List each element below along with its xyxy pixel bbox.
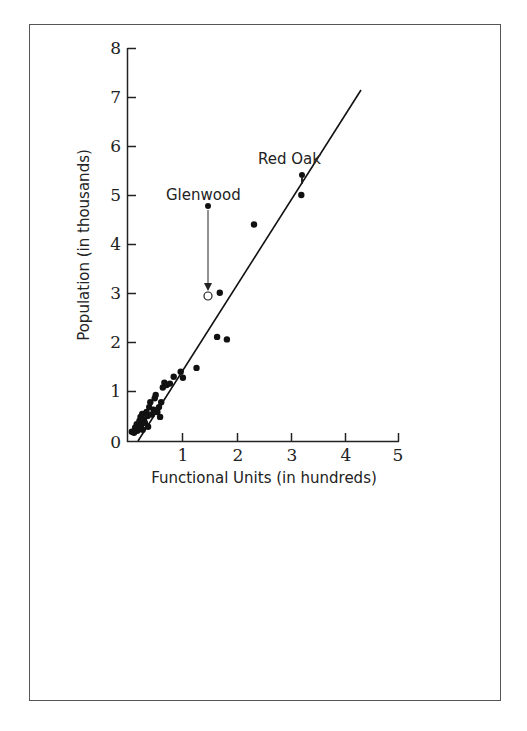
data-point [251,221,257,227]
y-tick-4: 4 [110,234,121,254]
red-oak-label: Red Oak [258,150,321,168]
y-tick-2: 2 [110,332,121,352]
y-tick-3: 3 [110,283,121,303]
data-point [157,414,163,420]
glenwood-original-point [205,203,211,209]
x-tick-3: 3 [287,445,298,465]
y-tick-6: 6 [110,136,121,156]
y-tick-0: 0 [110,432,121,452]
glenwood-annotation: Glenwood [166,186,241,300]
x-tick-2: 2 [233,445,244,465]
x-tick-1: 1 [178,445,189,465]
data-point [171,374,177,380]
data-point [298,192,304,198]
data-point [153,392,159,398]
glenwood-adjusted-point [204,292,212,300]
data-point [224,336,230,342]
x-tick-labels: 1 2 3 4 5 [178,445,404,465]
x-tick-4: 4 [341,445,352,465]
data-point [178,369,184,375]
data-point [140,427,146,433]
x-axis [127,433,399,442]
red-oak-annotation: Red Oak [258,150,321,184]
data-point [193,365,199,371]
data-point [217,290,223,296]
y-axis-title: Population (in thousands) [75,149,93,341]
data-point [145,424,151,430]
data-point [180,375,186,381]
glenwood-arrow-head-icon [204,283,212,291]
y-tick-1: 1 [110,381,121,401]
trend-line [138,90,361,441]
scatter-chart: 0 1 2 3 4 5 6 7 8 1 2 3 4 5 Functional U… [0,0,527,731]
data-point [167,380,173,386]
y-tick-5: 5 [110,185,121,205]
y-tick-labels: 0 1 2 3 4 5 6 7 8 [110,38,121,452]
data-point [214,334,220,340]
y-tick-7: 7 [110,87,121,107]
y-tick-8: 8 [110,38,121,58]
x-axis-title: Functional Units (in hundreds) [151,469,377,487]
y-axis [128,48,137,442]
data-points [129,192,305,436]
data-point [158,399,164,405]
glenwood-label: Glenwood [166,186,241,204]
x-tick-5: 5 [393,445,404,465]
